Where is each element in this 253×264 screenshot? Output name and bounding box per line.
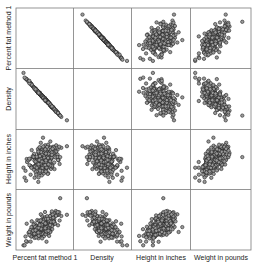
data-point	[210, 155, 213, 158]
data-point	[197, 52, 200, 55]
data-point	[212, 136, 215, 139]
data-point	[110, 236, 113, 239]
data-point	[218, 41, 221, 44]
data-point	[155, 101, 158, 104]
data-point	[208, 101, 211, 104]
data-point	[148, 99, 151, 102]
data-point	[198, 56, 201, 59]
data-point	[28, 163, 31, 166]
scatterplot-matrix: Percent fat method 1 Density Height in i…	[0, 0, 253, 264]
data-point	[167, 227, 170, 230]
data-point	[159, 92, 162, 95]
data-point	[137, 90, 140, 93]
data-point	[241, 20, 244, 23]
data-point	[171, 92, 174, 95]
data-point	[50, 105, 53, 108]
data-point	[35, 173, 38, 176]
data-point	[212, 172, 215, 175]
data-point	[148, 36, 151, 39]
data-point	[32, 155, 35, 158]
data-point	[204, 163, 207, 166]
data-point	[201, 88, 204, 91]
data-point	[151, 89, 154, 92]
data-point	[108, 150, 111, 153]
data-point	[81, 13, 84, 16]
data-point	[58, 162, 61, 165]
data-point	[169, 99, 172, 102]
data-point	[65, 213, 68, 216]
data-point	[24, 235, 27, 238]
data-point	[218, 21, 221, 24]
data-point	[155, 33, 158, 36]
data-point	[45, 240, 48, 243]
data-point	[217, 27, 220, 30]
data-point	[164, 210, 167, 213]
data-point	[110, 173, 113, 176]
data-point	[24, 169, 27, 172]
data-point	[207, 140, 210, 143]
data-point	[86, 219, 89, 222]
data-point	[116, 233, 119, 236]
data-point	[44, 170, 47, 173]
data-point	[227, 97, 230, 100]
data-point	[154, 36, 157, 39]
data-point	[86, 162, 89, 165]
data-point	[115, 173, 118, 176]
data-point	[214, 111, 217, 114]
data-point	[22, 71, 25, 74]
data-point	[112, 155, 115, 158]
data-point	[169, 36, 172, 39]
data-point	[220, 167, 223, 170]
data-point	[157, 88, 160, 91]
data-point	[37, 180, 40, 183]
data-point	[59, 197, 62, 200]
data-point	[44, 148, 47, 151]
data-point	[214, 31, 217, 34]
data-point	[24, 240, 27, 243]
data-point	[164, 29, 167, 32]
data-point	[145, 88, 148, 91]
data-point	[148, 42, 151, 45]
data-point	[37, 91, 40, 94]
data-point	[50, 210, 53, 213]
data-point	[38, 154, 41, 157]
data-point	[159, 42, 162, 45]
data-point	[149, 222, 152, 225]
data-point	[197, 35, 200, 38]
data-point	[170, 213, 173, 216]
data-point	[200, 170, 203, 173]
data-point	[181, 96, 184, 99]
data-point	[206, 43, 209, 46]
data-point	[162, 85, 165, 88]
data-point	[151, 59, 154, 62]
data-point	[142, 43, 145, 46]
data-point	[118, 157, 121, 160]
data-point	[147, 232, 150, 235]
data-point	[223, 160, 226, 163]
data-point	[118, 53, 121, 56]
data-point	[37, 150, 40, 153]
data-point	[30, 220, 33, 223]
data-point	[100, 36, 103, 39]
data-point	[93, 216, 96, 219]
data-point	[28, 157, 31, 160]
data-point	[59, 155, 62, 158]
data-point	[174, 220, 177, 223]
data-point	[148, 57, 151, 60]
data-point	[52, 216, 55, 219]
data-point	[121, 58, 124, 61]
data-point	[105, 219, 108, 222]
data-point	[33, 232, 36, 235]
data-point	[85, 197, 88, 200]
data-point	[162, 227, 165, 230]
data-point	[198, 77, 201, 80]
data-point	[227, 36, 230, 39]
data-point	[156, 27, 159, 30]
data-point	[34, 160, 37, 163]
data-point	[39, 141, 42, 144]
data-point	[89, 214, 92, 217]
data-point	[100, 148, 103, 151]
data-point	[162, 45, 165, 48]
data-point	[212, 51, 215, 54]
data-point	[218, 83, 221, 86]
